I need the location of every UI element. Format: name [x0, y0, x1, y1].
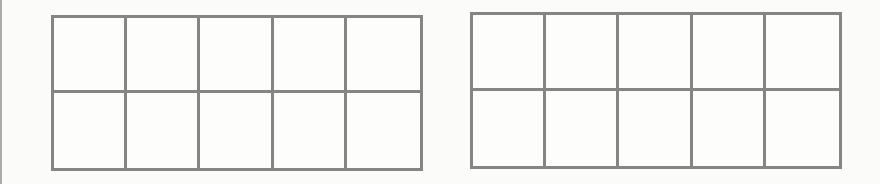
ten-frame-cell [619, 15, 692, 91]
ten-frame-cell [546, 15, 619, 91]
ten-frame-cell [619, 91, 692, 167]
ten-frame-cell [127, 18, 200, 93]
ten-frame-cell [766, 91, 839, 167]
ten-frame-cell [274, 18, 347, 93]
ten-frame-cell [473, 91, 546, 167]
ten-frame-cell [473, 15, 546, 91]
ten-frame-cell [693, 91, 766, 167]
ten-frame-cell [200, 18, 273, 93]
ten-frame-cell [766, 15, 839, 91]
ten-frame-right [470, 12, 842, 169]
ten-frame-cell [693, 15, 766, 91]
ten-frame-cell [546, 91, 619, 167]
scan-edge-line [0, 0, 2, 184]
ten-frame-cell [54, 93, 127, 168]
ten-frame-cell [200, 93, 273, 168]
ten-frame-cell [274, 93, 347, 168]
ten-frame-cell [347, 18, 420, 93]
ten-frame-cell [347, 93, 420, 168]
ten-frame-cell [54, 18, 127, 93]
ten-frame-cell [127, 93, 200, 168]
ten-frame-left [51, 15, 423, 171]
